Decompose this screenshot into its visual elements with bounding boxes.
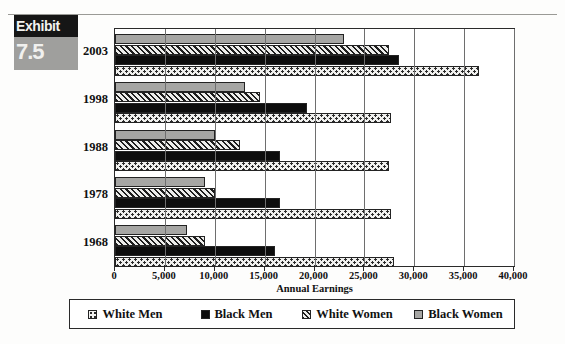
gridline-15000 [265, 29, 266, 266]
bar-white-women-1968 [115, 236, 205, 246]
xtick-label-40000: 40,000 [483, 270, 543, 281]
bar-white-men-1968 [115, 257, 394, 267]
legend-label-white-women: White Women [316, 307, 393, 322]
exhibit-badge: Exhibit 7.5 [14, 15, 78, 70]
top-rule [8, 14, 557, 15]
bar-black-men-1988 [115, 151, 280, 161]
xtick-mark-40000 [513, 267, 514, 271]
legend-swatch-black-men-icon [201, 310, 210, 319]
year-label-1968: 1968 [64, 235, 108, 250]
bar-white-women-2003 [115, 45, 389, 55]
gridline-10000 [215, 29, 216, 266]
bar-black-men-2003 [115, 55, 399, 65]
chart-plot-area [114, 28, 515, 267]
xtick-mark-5000 [164, 267, 165, 271]
xtick-mark-20000 [314, 267, 315, 271]
gridline-35000 [464, 29, 465, 266]
bar-white-men-1988 [115, 161, 389, 171]
year-label-2003: 2003 [64, 44, 108, 59]
bar-black-women-1998 [115, 82, 245, 92]
legend-label-white-men: White Men [102, 307, 162, 322]
bar-black-men-1968 [115, 246, 275, 256]
year-label-1998: 1998 [64, 92, 108, 107]
bar-black-men-1998 [115, 103, 307, 113]
bar-black-men-1978 [115, 198, 280, 208]
legend-item-white-women[interactable]: White Women [292, 307, 403, 322]
chart-legend: White MenBlack MenWhite WomenBlack Women [69, 299, 515, 329]
bar-black-women-1978 [115, 177, 205, 187]
legend-item-black-men[interactable]: Black Men [181, 307, 292, 322]
bar-white-men-1978 [115, 209, 391, 219]
gridline-25000 [364, 29, 365, 266]
bar-white-women-1998 [115, 92, 260, 102]
xtick-mark-0 [114, 267, 115, 271]
bar-white-women-1988 [115, 140, 240, 150]
gridline-20000 [315, 29, 316, 266]
xtick-mark-30000 [413, 267, 414, 271]
legend-label-black-women: Black Women [428, 307, 502, 322]
legend-swatch-white-men-icon [88, 310, 97, 319]
xtick-mark-35000 [463, 267, 464, 271]
legend-item-black-women[interactable]: Black Women [403, 307, 514, 322]
bar-black-women-1968 [115, 225, 187, 235]
xtick-mark-15000 [264, 267, 265, 271]
xtick-mark-25000 [363, 267, 364, 271]
bar-black-women-2003 [115, 34, 344, 44]
gridline-5000 [165, 29, 166, 266]
legend-swatch-black-women-icon [414, 310, 423, 319]
legend-swatch-white-women-icon [302, 310, 311, 319]
bar-white-men-2003 [115, 66, 479, 76]
legend-label-black-men: Black Men [215, 307, 273, 322]
bar-white-men-1998 [115, 113, 391, 123]
x-axis-title: Annual Earnings [114, 283, 515, 294]
year-label-1988: 1988 [64, 140, 108, 155]
legend-item-white-men[interactable]: White Men [70, 307, 181, 322]
gridline-40000 [514, 29, 515, 266]
exhibit-label: Exhibit [16, 16, 78, 36]
xtick-mark-10000 [214, 267, 215, 271]
gridline-30000 [414, 29, 415, 266]
year-label-1978: 1978 [64, 187, 108, 202]
